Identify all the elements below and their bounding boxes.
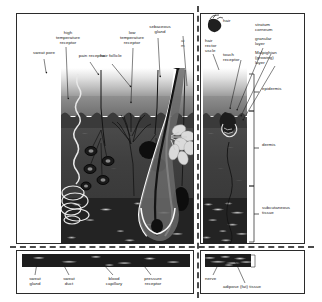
- label-blood-capillary: blood capillary: [97, 276, 131, 286]
- label-stratum-corneum: stratum corneum: [255, 22, 291, 32]
- label-hair-follicle: hair follicle: [89, 53, 133, 58]
- bottom-left-panel: sweat gland sweat duct blood capillary p…: [16, 250, 194, 294]
- label-malpighian-layer: Malpighian (growing) layer: [255, 50, 295, 66]
- horizontal-divider: [10, 246, 314, 248]
- epidermis-layer: [61, 96, 193, 115]
- right-subcutaneous-speckle: [203, 198, 247, 244]
- right-epidermis-layer: [203, 96, 247, 115]
- bottom-right-tissue-strip: [205, 254, 251, 267]
- bottom-left-tissue-strip: [22, 254, 190, 267]
- right-dermis-texture: [203, 117, 247, 198]
- label-high-temperature-receptor: high temperature receptor: [45, 30, 91, 46]
- dermis-texture: [61, 117, 193, 198]
- label-hair-erector-muscle: hair rector uscle: [205, 38, 225, 54]
- right-skin-artwork: [203, 68, 247, 244]
- label-dermis: dermis: [262, 142, 308, 147]
- label-subcutaneous-tissue: subcutaneous tissue: [262, 205, 314, 215]
- skin-surface-layer: [61, 68, 193, 96]
- bottom-right-panel: nerve adipose (fat) tissue: [200, 250, 305, 294]
- label-nerve: nerve: [205, 276, 229, 281]
- label-pressure-receptor: pressure receptor: [135, 276, 171, 286]
- label-sebaceous-gland: sebaceous gland: [137, 24, 183, 34]
- label-touch-receptor: touch receptor: [223, 52, 249, 62]
- label-sweat-duct: sweat duct: [53, 276, 85, 286]
- label-edge-partial: ai m: [181, 38, 195, 48]
- label-adipose-tissue: adipose (fat) tissue: [223, 284, 287, 289]
- label-sweat-pore: sweat pore: [21, 50, 67, 55]
- subcutaneous-speckle: [61, 198, 193, 244]
- label-hair: hair: [223, 18, 245, 23]
- hair-icon: [208, 15, 223, 32]
- label-granular-layer: granular layer: [255, 36, 291, 46]
- skin-diagram-root: sweat pore high temperature receptor pai…: [0, 0, 322, 302]
- strata-brackets: [249, 74, 259, 242]
- label-sweat-gland: sweat gland: [19, 276, 51, 286]
- label-epidermis: epidermis: [262, 86, 308, 91]
- left-skin-artwork: [61, 68, 193, 244]
- vertical-divider: [197, 6, 199, 298]
- right-surface-layer: [203, 68, 247, 96]
- main-left-panel: sweat pore high temperature receptor pai…: [16, 13, 194, 244]
